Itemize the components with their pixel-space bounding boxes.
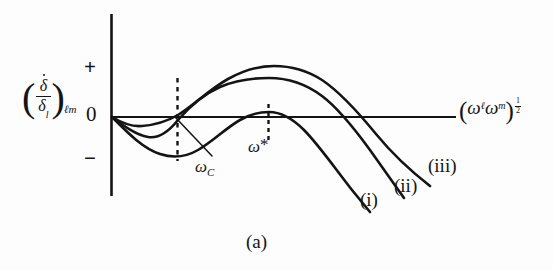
curve-label-i: (i) — [360, 190, 378, 209]
figure-container: + 0 − ( δ δl ) ℓm (ωℓωm) 1 2 ωC ω* (i) (… — [0, 0, 553, 270]
y-axis-label: ( δ δl ) ℓm — [22, 78, 76, 118]
omega-star-asterisk: * — [260, 135, 269, 154]
y-tick-minus: − — [84, 148, 96, 169]
plot-canvas — [0, 0, 553, 270]
y-label-open-paren: ( — [22, 82, 35, 115]
omega-c-leader-line — [176, 118, 212, 156]
exponent-denominator: 2 — [516, 107, 520, 115]
y-label-numerator-symbol: δ — [40, 77, 47, 94]
x-label-open-paren: ( — [459, 98, 467, 123]
y-tick-zero: 0 — [86, 104, 97, 125]
omega-c-subscript: C — [207, 166, 214, 178]
omega-star-symbol: ω — [248, 137, 260, 156]
y-label-close-paren: ) — [52, 82, 65, 115]
x-label-omega-l: ω — [467, 98, 480, 117]
y-label-denominator-subscript: l — [46, 109, 49, 120]
y-label-numerator-delta-dot: δ — [38, 78, 49, 95]
x-label-exponent-one-half: 1 2 — [515, 97, 521, 115]
x-axis-label: (ωℓωm) 1 2 — [459, 98, 521, 123]
y-label-denominator-symbol: δ — [38, 97, 45, 114]
curve-i — [112, 112, 370, 212]
y-tick-plus: + — [84, 57, 96, 78]
figure-caption: (a) — [246, 232, 267, 251]
x-label-omega-l-subscript: ℓ — [481, 101, 485, 111]
curve-label-ii: (ii) — [394, 176, 417, 195]
y-label-outer-subscript: ℓm — [64, 104, 77, 118]
omega-star-label: ω* — [248, 138, 269, 155]
omega-c-label: ωC — [195, 158, 214, 175]
exponent-numerator: 1 — [516, 97, 520, 105]
y-label-fraction: δ δl — [35, 78, 51, 118]
x-label-omega-m-subscript: m — [498, 101, 505, 111]
curve-label-iii: (iii) — [428, 156, 457, 175]
y-label-denominator: δl — [36, 98, 50, 118]
x-label-close-paren: ) — [506, 98, 514, 123]
x-label-omega-m: ω — [485, 98, 498, 117]
omega-c-symbol: ω — [195, 157, 207, 176]
